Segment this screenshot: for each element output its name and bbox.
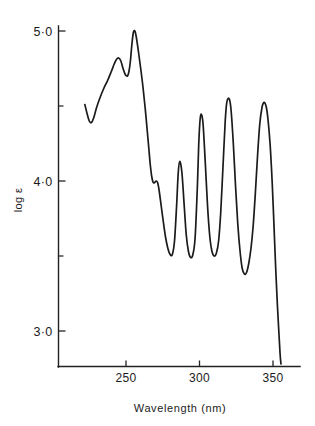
x-axis-title: Wavelength (nm)	[134, 402, 226, 414]
y-tick-label: 3·0	[34, 325, 53, 339]
x-tick-label: 350	[263, 371, 284, 385]
spectrum-figure: 5·04·03·0 250300350 log ε Wavelength (nm…	[0, 0, 315, 426]
spectrum-chart: 5·04·03·0 250300350 log ε Wavelength (nm…	[0, 0, 315, 426]
chart-background	[0, 0, 315, 426]
y-tick-label: 4·0	[34, 175, 53, 189]
x-tick-label: 300	[189, 371, 210, 385]
y-axis-title: log ε	[12, 188, 24, 213]
x-tick-label: 250	[116, 371, 137, 385]
y-tick-label: 5·0	[34, 25, 53, 39]
